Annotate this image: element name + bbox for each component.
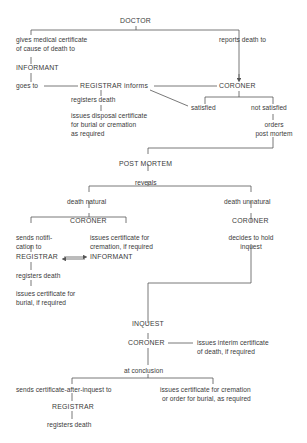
registers-death-text-top: registers death <box>71 96 115 105</box>
final-certificate-text-1: issues certificate for cremation <box>160 386 251 395</box>
reveals-text: reveals <box>135 179 157 188</box>
inquest-node: INQUEST <box>132 320 164 329</box>
cremation-certificate-text-1: issues certificate for <box>90 234 149 243</box>
informant-node-mid: INFORMANT <box>90 253 133 262</box>
goes-to-text: goes to <box>16 82 38 91</box>
post-mortem-node: POST MORTEM <box>119 160 172 169</box>
orders-text-2: post mortem <box>248 130 300 139</box>
satisfied-text: satisfied <box>191 104 216 113</box>
registrar-informs-node: REGISTRAR informs <box>80 82 148 91</box>
doctor-node: DOCTOR <box>120 17 151 26</box>
orders-text-1: orders <box>248 121 300 130</box>
registrar-node-mid: REGISTRAR <box>16 253 58 262</box>
disposal-certificate-text-1: issues disposal certificate <box>71 112 147 121</box>
coroner-node-top: CORONER <box>219 82 256 91</box>
coroner-node-inquest: CORONER <box>128 339 165 348</box>
decides-inquest-text-1: decides to hold <box>221 234 281 243</box>
registers-death-text-bottom: registers death <box>47 421 91 430</box>
interim-certificate-text-2: of death, if required <box>197 348 255 357</box>
registers-death-text-mid: registers death <box>16 272 60 281</box>
sends-notification-text-1: sends notifi- <box>16 234 52 243</box>
final-certificate-text-2: or order for burial, as required <box>162 395 251 404</box>
decides-inquest-text-2: inquest <box>221 243 281 252</box>
gives-certificate-text-1: gives medical certificate <box>16 36 87 45</box>
registrar-node-bottom: REGISTRAR <box>52 403 94 412</box>
sends-notification-text-2: cation to <box>16 243 41 252</box>
not-satisfied-text: not satisfied <box>251 104 287 113</box>
death-natural-text: death natural <box>67 198 106 207</box>
coroner-node-natural: CORONER <box>70 217 107 226</box>
death-unnatural-text: death unnatural <box>224 198 271 207</box>
coroner-node-unnatural: CORONER <box>232 217 269 226</box>
disposal-certificate-text-2: for burial or cremation <box>71 121 136 130</box>
reports-death-text: reports death to <box>219 36 266 45</box>
informant-node: INFORMANT <box>16 64 59 73</box>
burial-certificate-text-2: burial, if required <box>16 299 66 308</box>
cremation-certificate-text-2: cremation, if required <box>90 243 153 252</box>
disposal-certificate-text-3: as required <box>71 130 105 139</box>
gives-certificate-text-2: of cause of death to <box>16 45 75 54</box>
interim-certificate-text-1: issues interim certificate <box>197 339 269 348</box>
sends-after-inquest-text: sends certificate-after-inquest to <box>16 386 112 395</box>
burial-certificate-text-1: issues certificate for <box>16 290 75 299</box>
at-conclusion-text: at conclusion <box>124 367 163 376</box>
